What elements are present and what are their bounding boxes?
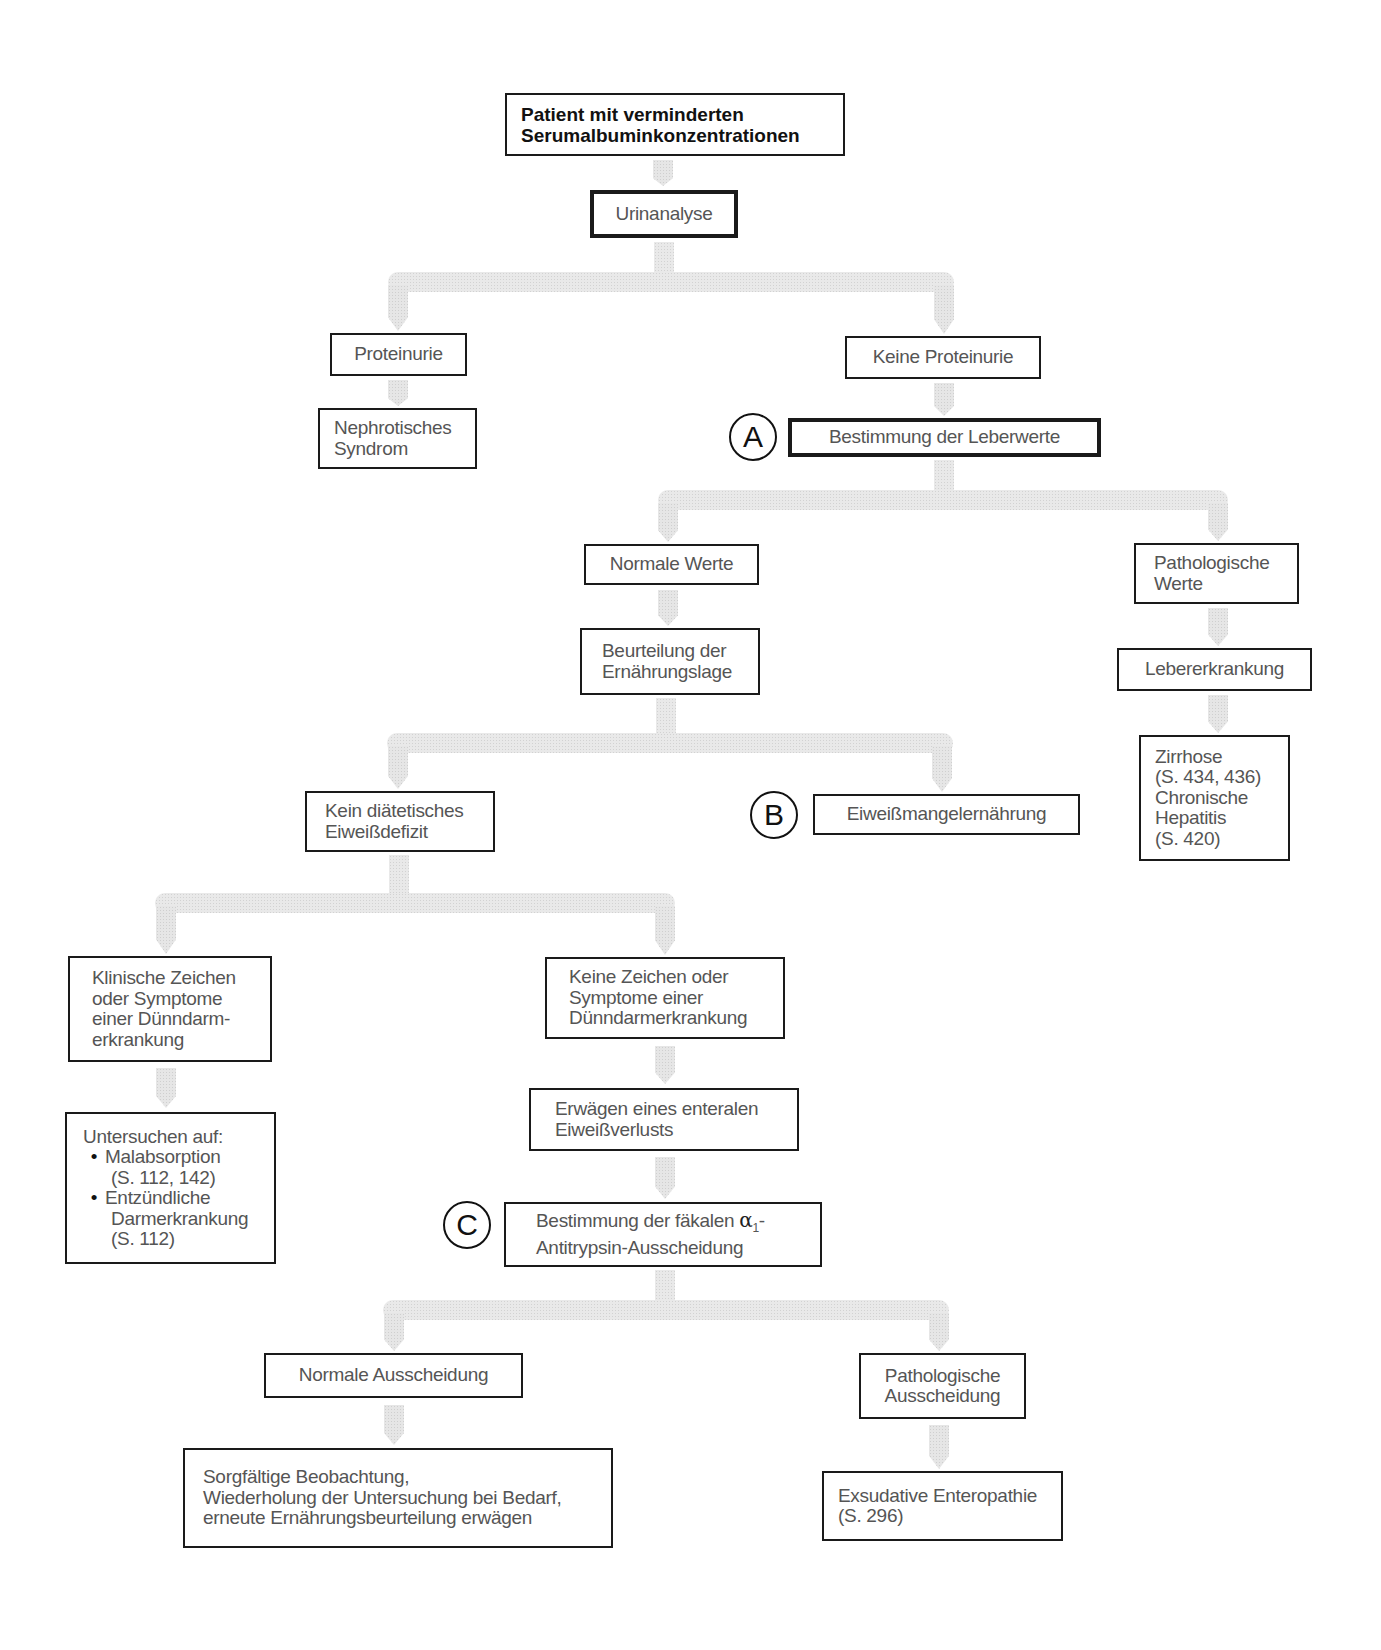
- node-pathologische-werte: Pathologische Werte: [1134, 543, 1299, 604]
- node-text: Ausscheidung: [885, 1386, 1001, 1407]
- node-text: Antitrypsin-Ausscheidung: [536, 1238, 806, 1259]
- bullet-icon: •: [83, 1188, 105, 1209]
- connector-arrow: [384, 1313, 404, 1351]
- connector-arrow: [932, 746, 952, 792]
- node-keine-zeichen: Keine Zeichen oder Symptome einer Dünnda…: [545, 957, 785, 1039]
- node-text: Nephrotisches: [334, 418, 461, 439]
- node-text: erneute Ernährungsbeurteilung erwägen: [203, 1508, 597, 1529]
- node-untersuchen: Untersuchen auf: • Malabsorption (S. 112…: [65, 1112, 276, 1264]
- node-leberwerte: Bestimmung der Leberwerte: [788, 418, 1101, 457]
- bullet-item: • Malabsorption: [83, 1147, 260, 1168]
- node-normale-werte: Normale Werte: [584, 544, 759, 585]
- node-text: Keine Zeichen oder: [569, 967, 769, 988]
- connector-arrow: [658, 503, 678, 542]
- node-text: (S. 434, 436): [1155, 767, 1274, 788]
- node-zirrhose: Zirrhose (S. 434, 436) Chronische Hepati…: [1139, 735, 1290, 861]
- connector-line: [658, 490, 1228, 510]
- node-text: Bestimmung der fäkalen α1-: [536, 1210, 806, 1238]
- text-segment: -: [759, 1210, 765, 1231]
- bullet-icon: •: [83, 1147, 105, 1168]
- node-text: Serumalbuminkonzentrationen: [521, 125, 829, 146]
- node-text: Entzündliche: [105, 1188, 210, 1209]
- node-text: Klinische Zeichen: [92, 968, 256, 989]
- connector-arrow: [929, 1313, 949, 1351]
- node-text: Lebererkrankung: [1145, 659, 1284, 680]
- text-segment: Bestimmung der fäkalen: [536, 1210, 739, 1231]
- node-klinische-zeichen: Klinische Zeichen oder Symptome einer Dü…: [68, 956, 272, 1062]
- root-node: Patient mit verminderten Serumalbuminkon…: [505, 93, 845, 156]
- connector-arrow: [388, 285, 408, 331]
- connector-line: [387, 733, 953, 753]
- node-text: Sorgfältige Beobachtung,: [203, 1467, 597, 1488]
- node-pathologische-ausscheidung: Pathologische Ausscheidung: [859, 1353, 1026, 1419]
- node-text: Bestimmung der Leberwerte: [829, 427, 1060, 448]
- node-exsudative-enteropathie: Exsudative Enteropathie (S. 296): [822, 1471, 1063, 1541]
- connector-line: [155, 893, 675, 913]
- connector-arrow: [655, 1157, 675, 1199]
- node-text: Hepatitis: [1155, 808, 1274, 829]
- node-text: Malabsorption: [105, 1147, 220, 1168]
- node-beurteilung: Beurteilung der Ernährungslage: [580, 628, 760, 695]
- node-text: Eiweißdefizit: [325, 822, 479, 843]
- node-text: Urinanalyse: [615, 204, 712, 225]
- bullet-item: • Entzündliche: [83, 1188, 260, 1209]
- connector-arrow: [388, 380, 408, 406]
- node-proteinurie: Proteinurie: [330, 333, 467, 376]
- node-text: Normale Werte: [610, 554, 734, 575]
- node-text: Pathologische: [1154, 553, 1283, 574]
- connector-arrow: [929, 1425, 949, 1469]
- node-text: Syndrom: [334, 439, 461, 460]
- node-text: oder Symptome: [92, 989, 256, 1010]
- node-text: Zirrhose: [1155, 747, 1274, 768]
- node-text: Normale Ausscheidung: [299, 1365, 488, 1386]
- node-text: Chronische: [1155, 788, 1274, 809]
- connector-arrow: [934, 285, 954, 334]
- node-heading: Untersuchen auf:: [83, 1127, 260, 1148]
- alpha-symbol: α: [739, 1208, 752, 1232]
- marker-a-icon: A: [729, 413, 777, 461]
- node-text: Dünndarmerkrankung: [569, 1008, 769, 1029]
- node-erwaegen: Erwägen eines enteralen Eiweißverlusts: [529, 1088, 799, 1151]
- marker-b-icon: B: [750, 791, 798, 839]
- connector-arrow: [934, 383, 954, 416]
- node-text: Werte: [1154, 574, 1283, 595]
- node-text: (S. 420): [1155, 829, 1274, 850]
- connector-arrow: [655, 1046, 675, 1084]
- node-nephrotisches-syndrom: Nephrotisches Syndrom: [318, 408, 477, 469]
- node-text: Ernährungslage: [602, 662, 744, 683]
- node-normale-ausscheidung: Normale Ausscheidung: [264, 1353, 523, 1398]
- node-text: Eiweißverlusts: [555, 1120, 783, 1141]
- node-text: Keine Proteinurie: [873, 347, 1014, 368]
- connector-arrow: [655, 906, 675, 955]
- node-alpha1-antitrypsin: Bestimmung der fäkalen α1- Antitrypsin-A…: [504, 1202, 822, 1267]
- connector-line: [388, 272, 954, 292]
- node-text: Symptome einer: [569, 988, 769, 1009]
- node-text: Erwägen eines enteralen: [555, 1099, 783, 1120]
- connector-arrow: [653, 160, 673, 186]
- connector-arrow: [658, 590, 678, 626]
- connector-arrow: [1208, 608, 1228, 646]
- connector-arrow: [388, 746, 408, 789]
- node-text: (S. 112): [83, 1229, 260, 1250]
- node-text: Pathologische: [885, 1366, 1000, 1387]
- node-text: Exsudative Enteropathie: [838, 1486, 1047, 1507]
- node-text: Wiederholung der Untersuchung bei Bedarf…: [203, 1488, 597, 1509]
- node-eiweissmangelernaehrung: Eiweißmangelernährung: [813, 794, 1080, 835]
- node-keine-proteinurie: Keine Proteinurie: [845, 336, 1041, 379]
- connector-arrow: [156, 906, 176, 954]
- node-text: Kein diätetisches: [325, 801, 479, 822]
- node-text: (S. 112, 142): [83, 1168, 260, 1189]
- node-sorgfaeltige-beobachtung: Sorgfältige Beobachtung, Wiederholung de…: [183, 1448, 613, 1548]
- connector-arrow: [1208, 695, 1228, 733]
- marker-c-icon: C: [443, 1201, 491, 1249]
- connector-arrow: [384, 1405, 404, 1445]
- connector-line: [383, 1300, 949, 1320]
- node-text: (S. 296): [838, 1506, 1047, 1527]
- node-text: Beurteilung der: [602, 641, 744, 662]
- connector-arrow: [156, 1068, 176, 1108]
- node-text: erkrankung: [92, 1030, 256, 1051]
- node-kein-eiweissdefizit: Kein diätetisches Eiweißdefizit: [305, 791, 495, 852]
- node-text: Darmerkrankung: [83, 1209, 260, 1230]
- node-text: Patient mit verminderten: [521, 104, 829, 125]
- node-lebererkrankung: Lebererkrankung: [1117, 648, 1312, 691]
